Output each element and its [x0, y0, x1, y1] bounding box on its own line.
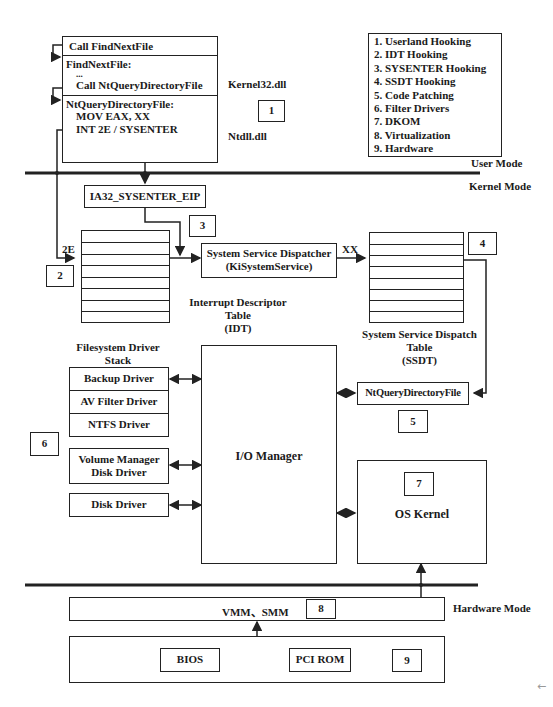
av-filter-driver: AV Filter Driver [70, 395, 168, 407]
legend-item: 1. Userland Hooking [374, 35, 501, 48]
call-findnextfile: Call FindNextFile [69, 40, 153, 53]
int-vector-label: 2E [62, 243, 75, 256]
return-arrow-icon: ← [537, 680, 546, 693]
firmware-layer: BIOS PCI ROM 9 [69, 636, 445, 683]
vmm-smm-layer: VMM、SMM 8 [69, 597, 445, 621]
legend-item: 8. Virtualization [374, 129, 501, 142]
backup-driver: Backup Driver [70, 372, 168, 384]
system-service-dispatcher: System Service Dispatcher (KiSystemServi… [201, 243, 337, 278]
int-sysenter: INT 2E / SYSENTER [76, 123, 178, 136]
vmm-smm-label: VMM、SMM [222, 603, 289, 619]
marker-7: 7 [404, 472, 434, 496]
service-index-label: XX [342, 243, 358, 256]
marker-3: 3 [189, 215, 216, 237]
ntquery-directory-file: NtQueryDirectoryFile [357, 382, 469, 405]
marker-8: 8 [306, 599, 336, 619]
mov-eax: MOV EAX, XX [76, 110, 150, 123]
ssdt-label: System Service Dispatch Table (SSDT) [357, 328, 482, 367]
legend-item: 6. Filter Drivers [374, 102, 501, 115]
legend-box: 1. Userland Hooking 2. IDT Hooking 3. SY… [368, 33, 502, 157]
ia32-sysenter-eip-label: IA32_SYSENTER_EIP [85, 186, 205, 206]
legend-item: 7. DKOM [374, 115, 501, 128]
legend-item: 5. Code Patching [374, 89, 501, 102]
disk-driver: Disk Driver [69, 493, 169, 517]
ssdt-table [369, 232, 464, 323]
marker-6: 6 [30, 432, 59, 456]
legend-item: 3. SYSENTER Hooking [374, 62, 501, 75]
marker-4: 4 [468, 232, 497, 255]
kernel32-label: Kernel32.dll [228, 78, 286, 91]
userland-code-box: Call FindNextFile FindNextFile: ... Call… [62, 36, 218, 163]
marker-9: 9 [392, 649, 422, 672]
ntfs-driver: NTFS Driver [70, 418, 168, 430]
fs-stack-label: Filesystem Driver Stack [68, 341, 168, 367]
marker-2: 2 [46, 265, 74, 287]
pci-rom-box: PCI ROM [289, 648, 351, 672]
legend-item: 4. SSDT Hooking [374, 75, 501, 88]
marker-1: 1 [258, 100, 285, 122]
legend-item: 9. Hardware [374, 142, 501, 155]
marker-5: 5 [398, 410, 428, 433]
idt-table [81, 230, 170, 323]
user-mode-label: User Mode [471, 157, 522, 170]
ntdll-label: Ntdll.dll [228, 130, 267, 143]
volume-manager-driver: Volume Manager Disk Driver [69, 448, 169, 484]
hardware-mode-label: Hardware Mode [453, 602, 531, 615]
fs-driver-stack: Backup Driver AV Filter Driver NTFS Driv… [69, 367, 169, 437]
call-ntquery: Call NtQueryDirectoryFile [76, 79, 203, 92]
idt-label: Interrupt Descriptor Table (IDT) [178, 296, 298, 335]
bios-box: BIOS [160, 648, 220, 672]
os-kernel: 7 OS Kernel [357, 460, 487, 564]
kernel-mode-label: Kernel Mode [469, 180, 531, 193]
ia32-sysenter-eip-box: IA32_SYSENTER_EIP [84, 185, 206, 208]
io-manager: I/O Manager [201, 345, 337, 564]
legend-item: 2. IDT Hooking [374, 48, 501, 61]
